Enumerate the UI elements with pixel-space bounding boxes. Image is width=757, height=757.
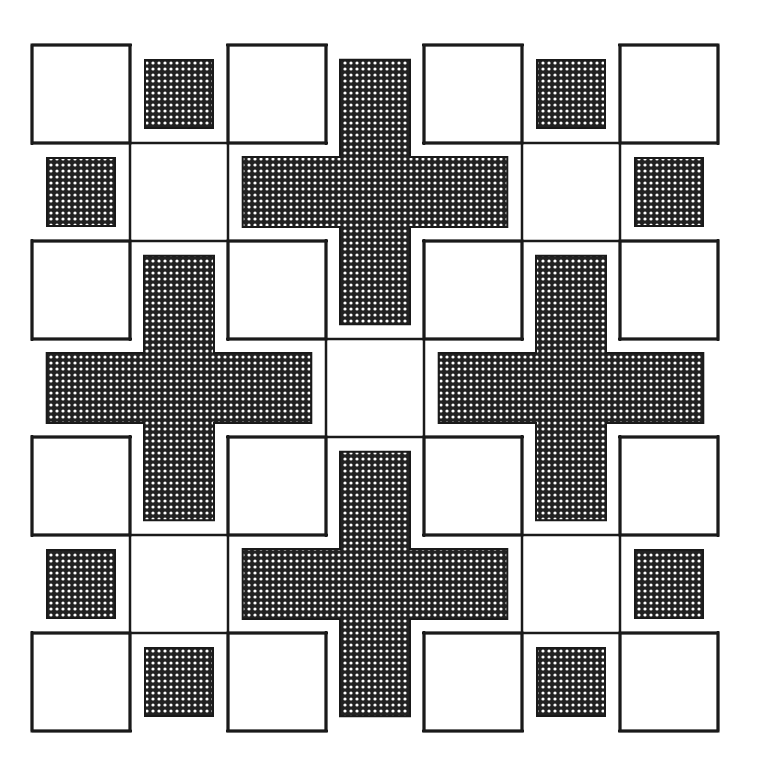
cross-shape [243, 60, 508, 325]
textured-square [47, 158, 115, 226]
white-square [228, 633, 326, 731]
white-square [32, 241, 130, 339]
edge-gap [132, 41, 226, 49]
textured-square [635, 158, 703, 226]
edge-gap [524, 727, 618, 735]
quilt-pattern [0, 0, 757, 757]
textured-square [537, 60, 605, 128]
white-square [228, 241, 326, 339]
white-square [424, 633, 522, 731]
edge-gap [328, 727, 422, 735]
textured-square [145, 648, 213, 716]
white-square [32, 45, 130, 143]
edge-gap [714, 341, 722, 435]
white-square [32, 633, 130, 731]
white-square [620, 633, 718, 731]
white-square [32, 437, 130, 535]
white-square [620, 241, 718, 339]
textured-square [145, 60, 213, 128]
crosses-layer [47, 60, 704, 717]
white-square [424, 241, 522, 339]
white-square [228, 437, 326, 535]
cross-shape [243, 452, 508, 717]
edge-gap [132, 727, 226, 735]
edge-gap [328, 41, 422, 49]
edge-gap [28, 145, 36, 239]
textured-square [635, 550, 703, 618]
edge-gap [28, 537, 36, 631]
textured-square [537, 648, 605, 716]
edge-gap [524, 41, 618, 49]
white-square [424, 437, 522, 535]
edge-gap [28, 341, 36, 435]
white-square [620, 437, 718, 535]
cross-shape [439, 256, 704, 521]
textured-square [47, 550, 115, 618]
white-square [620, 45, 718, 143]
edge-gap [714, 145, 722, 239]
edge-gap [714, 537, 722, 631]
white-square [228, 45, 326, 143]
cross-shape [47, 256, 312, 521]
white-square [424, 45, 522, 143]
